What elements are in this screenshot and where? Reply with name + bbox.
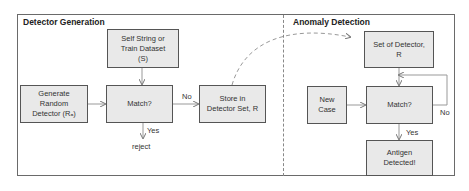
- reject-label: reject: [132, 142, 150, 151]
- match-node-left: Match?: [106, 85, 173, 123]
- new-case-node: New Case: [307, 86, 347, 124]
- generate-detector-node: Generate Random Detector (Rₐ): [20, 85, 88, 123]
- yes-label-left: Yes: [147, 126, 159, 135]
- yes-label-right: Yes: [406, 128, 418, 137]
- set-of-detector-node: Set of Detector, R: [364, 31, 434, 68]
- match-node-right: Match?: [366, 86, 433, 124]
- antigen-detected-node: Antigen Detected!: [366, 140, 433, 176]
- store-detector-node: Store in Detector Set, R: [199, 85, 266, 123]
- no-label-right: No: [440, 108, 450, 117]
- no-label-left: No: [182, 92, 192, 101]
- self-string-node: Self String or Train Dataset (S): [107, 29, 179, 68]
